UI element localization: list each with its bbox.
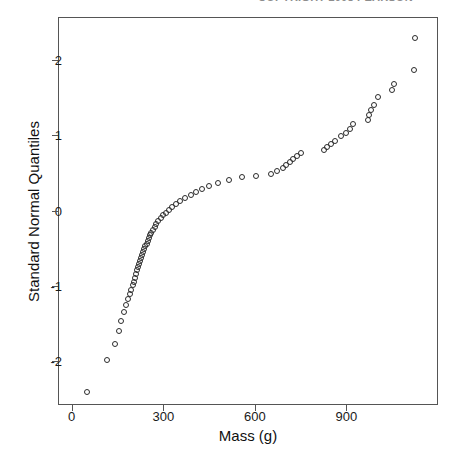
y-tick-mark xyxy=(52,361,58,362)
data-point xyxy=(226,177,232,183)
plot-area xyxy=(58,17,438,405)
data-point xyxy=(268,171,274,177)
data-point xyxy=(253,173,259,179)
data-point xyxy=(375,94,381,100)
x-tick-mark xyxy=(163,405,164,411)
x-tick-mark xyxy=(346,405,347,411)
data-point xyxy=(84,389,90,395)
data-point xyxy=(118,318,124,324)
data-point xyxy=(239,174,245,180)
data-point xyxy=(389,87,395,93)
x-tick-mark xyxy=(72,405,73,411)
data-point xyxy=(182,195,188,201)
y-tick-mark xyxy=(52,286,58,287)
x-tick-label: 0 xyxy=(68,409,75,424)
data-point xyxy=(412,35,418,41)
data-point xyxy=(104,357,110,363)
y-tick-mark xyxy=(52,211,58,212)
data-point xyxy=(411,67,417,73)
y-tick-mark xyxy=(52,60,58,61)
y-tick-mark xyxy=(52,135,58,136)
data-point xyxy=(112,341,118,347)
x-tick-mark xyxy=(255,405,256,411)
data-point xyxy=(206,183,212,189)
data-point xyxy=(332,138,338,144)
data-point xyxy=(116,328,122,334)
data-point xyxy=(121,309,127,315)
data-point xyxy=(371,102,377,108)
qq-plot-figure: COPYRIGHT 2008 PEARSON 210-1-2 030060090… xyxy=(0,0,453,450)
x-tick-label: 900 xyxy=(336,409,358,424)
x-tick-label: 300 xyxy=(152,409,174,424)
data-point xyxy=(298,150,304,156)
data-point xyxy=(215,180,221,186)
data-point xyxy=(366,112,372,118)
data-point xyxy=(350,121,356,127)
data-point xyxy=(274,168,280,174)
data-point xyxy=(199,186,205,192)
x-axis-title: Mass (g) xyxy=(58,427,438,444)
x-tick-label: 600 xyxy=(244,409,266,424)
y-axis-title: Standard Normal Quantiles xyxy=(25,12,42,412)
data-point xyxy=(391,81,397,87)
data-point xyxy=(368,107,374,113)
data-point xyxy=(193,189,199,195)
data-point xyxy=(123,302,129,308)
clipped-header-text: COPYRIGHT 2008 PEARSON xyxy=(258,0,453,2)
